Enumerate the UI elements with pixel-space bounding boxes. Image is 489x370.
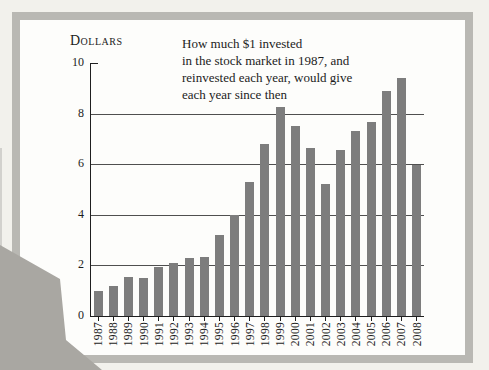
x-tick-label: 2007 [395, 322, 407, 362]
bar-1993 [185, 258, 194, 316]
x-tick [401, 317, 402, 321]
bar-2003 [336, 150, 345, 316]
bar-1991 [154, 267, 163, 316]
x-tick-label: 2003 [335, 322, 347, 362]
x-tick-label: 1994 [198, 322, 210, 362]
bar-2006 [382, 91, 391, 316]
x-tick [310, 317, 311, 321]
bar-1996 [230, 215, 239, 316]
x-tick [143, 317, 144, 321]
x-tick-label: 1996 [229, 322, 241, 362]
x-tick [189, 317, 190, 321]
x-tick [325, 317, 326, 321]
bar-1998 [260, 144, 269, 316]
x-tick-label: 1992 [168, 322, 180, 362]
chart-frame: Dollars How much $1 invested in the stoc… [12, 12, 473, 363]
chart-panel: Dollars How much $1 invested in the stoc… [20, 20, 465, 355]
bar-1995 [215, 235, 224, 316]
x-tick [371, 317, 372, 321]
y-tick-label: 10 [52, 55, 84, 70]
x-tick-label: 1987 [92, 322, 104, 362]
bar-1987 [94, 291, 103, 316]
x-tick-label: 1998 [259, 322, 271, 362]
y-tick-label: 6 [52, 156, 84, 171]
x-tick-label: 2001 [304, 322, 316, 362]
page-edge-shadow [0, 148, 2, 248]
y-axis-unit-label: Dollars [70, 33, 123, 49]
x-tick-label: 1990 [138, 322, 150, 362]
x-tick-label: 1999 [274, 322, 286, 362]
y-tick-label: 8 [52, 106, 84, 121]
x-tick [355, 317, 356, 321]
bar-2000 [291, 126, 300, 316]
x-tick-label: 1997 [244, 322, 256, 362]
x-tick-label: 1991 [153, 322, 165, 362]
bar-1989 [124, 277, 133, 316]
x-tick [295, 317, 296, 321]
x-tick-label: 1988 [107, 322, 119, 362]
bar-1999 [276, 107, 285, 316]
x-tick-label: 2004 [350, 322, 362, 362]
bar-1988 [109, 286, 118, 316]
bar-2005 [367, 122, 376, 316]
x-tick [416, 317, 417, 321]
y-axis [90, 63, 91, 316]
x-tick [204, 317, 205, 321]
bar-2007 [397, 78, 406, 316]
x-tick [113, 317, 114, 321]
x-tick [234, 317, 235, 321]
bar-2001 [306, 148, 315, 316]
chart-title-line: How much $1 invested [182, 35, 352, 52]
x-tick-label: 2006 [380, 322, 392, 362]
x-tick-label: 1993 [183, 322, 195, 362]
x-tick [128, 317, 129, 321]
gridline-8 [90, 114, 424, 115]
y-tick-label: 4 [52, 207, 84, 222]
x-tick-label: 2008 [411, 322, 423, 362]
x-tick-label: 1995 [213, 322, 225, 362]
x-tick-label: 2002 [320, 322, 332, 362]
bar-1994 [200, 257, 209, 316]
x-tick [98, 317, 99, 321]
x-axis-baseline [90, 316, 424, 317]
bar-2002 [321, 184, 330, 316]
x-tick [173, 317, 174, 321]
x-tick [264, 317, 265, 321]
x-tick [280, 317, 281, 321]
bar-2008 [412, 165, 421, 316]
plot-area: 0246810198719881989199019911992199319941… [90, 63, 424, 316]
x-tick [340, 317, 341, 321]
bar-1997 [245, 182, 254, 316]
x-tick-label: 2005 [365, 322, 377, 362]
x-tick-label: 2000 [289, 322, 301, 362]
y-tick-label: 2 [52, 257, 84, 272]
y-axis-top-tick [90, 63, 98, 64]
x-tick [158, 317, 159, 321]
bar-1990 [139, 278, 148, 316]
bar-2004 [351, 131, 360, 316]
x-tick [249, 317, 250, 321]
x-tick [219, 317, 220, 321]
x-tick [386, 317, 387, 321]
x-tick-label: 1989 [122, 322, 134, 362]
bar-1992 [169, 263, 178, 316]
